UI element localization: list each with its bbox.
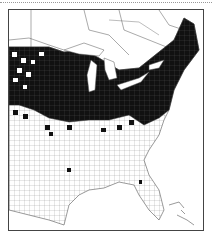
top-dotted-border <box>0 2 212 3</box>
caribbean-islands <box>169 202 194 225</box>
map-frame <box>8 9 204 231</box>
distribution-map <box>9 10 203 230</box>
